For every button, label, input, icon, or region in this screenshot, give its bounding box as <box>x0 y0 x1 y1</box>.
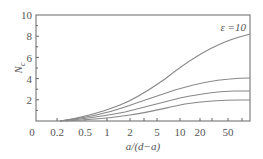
y-tick-10: 10 <box>21 9 33 21</box>
x-tick-0-2: 0.2 <box>50 126 64 138</box>
x-axis-title: a/(d−a) <box>126 140 161 153</box>
svg-text:Nc: Nc <box>12 62 27 74</box>
y-tick-4: 4 <box>27 73 33 85</box>
epsilon-annotation: ε =10 <box>220 21 246 33</box>
x-tick-10: 10 <box>175 126 187 138</box>
x-tick-5: 5 <box>154 126 160 138</box>
chart-figure: 2 4 6 8 10 0 0.2 0.5 1 2 5 10 20 50 a/(d… <box>0 0 263 159</box>
x-tick-1: 1 <box>104 126 110 138</box>
x-tick-0: 0 <box>29 126 35 138</box>
y-tick-2: 2 <box>27 94 33 106</box>
x-tick-20: 20 <box>195 126 207 138</box>
y-tick-6: 6 <box>27 52 33 64</box>
y-axis-title-sub: c <box>18 62 27 66</box>
x-tick-2: 2 <box>127 126 133 138</box>
plot-frame <box>36 15 250 121</box>
y-tick-8: 8 <box>27 30 33 42</box>
curves <box>60 34 250 121</box>
x-tick-0-5: 0.5 <box>78 126 92 138</box>
curve-eps10 <box>60 34 250 121</box>
y-axis-title: Nc <box>12 62 27 74</box>
x-tick-50: 50 <box>223 126 235 138</box>
curve-2 <box>60 78 250 121</box>
